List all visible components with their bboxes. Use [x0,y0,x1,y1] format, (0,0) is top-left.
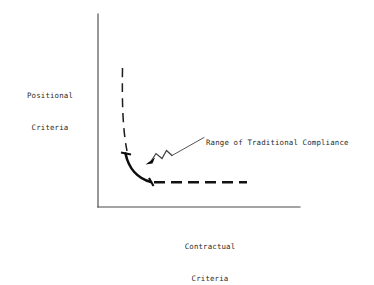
range-start-tick [121,153,131,155]
x-axis-label-line-1: Contractual [155,242,265,253]
annotation-arrowhead [146,158,156,165]
y-axis-label-line-2: Criteria [8,123,92,134]
curve-solid-range [126,154,152,183]
x-axis-label: Contractual Criteria [155,221,265,285]
y-axis-label: Positional Criteria [8,70,92,154]
x-axis-label-line-2: Criteria [155,274,265,285]
curve-dashed-upper [122,68,127,151]
annotation-leader-zigzag [152,151,173,161]
annotation-leader-line [172,138,204,156]
annotation-label: Range of Traditional Compliance [206,138,372,149]
y-axis-label-line-1: Positional [8,91,92,102]
